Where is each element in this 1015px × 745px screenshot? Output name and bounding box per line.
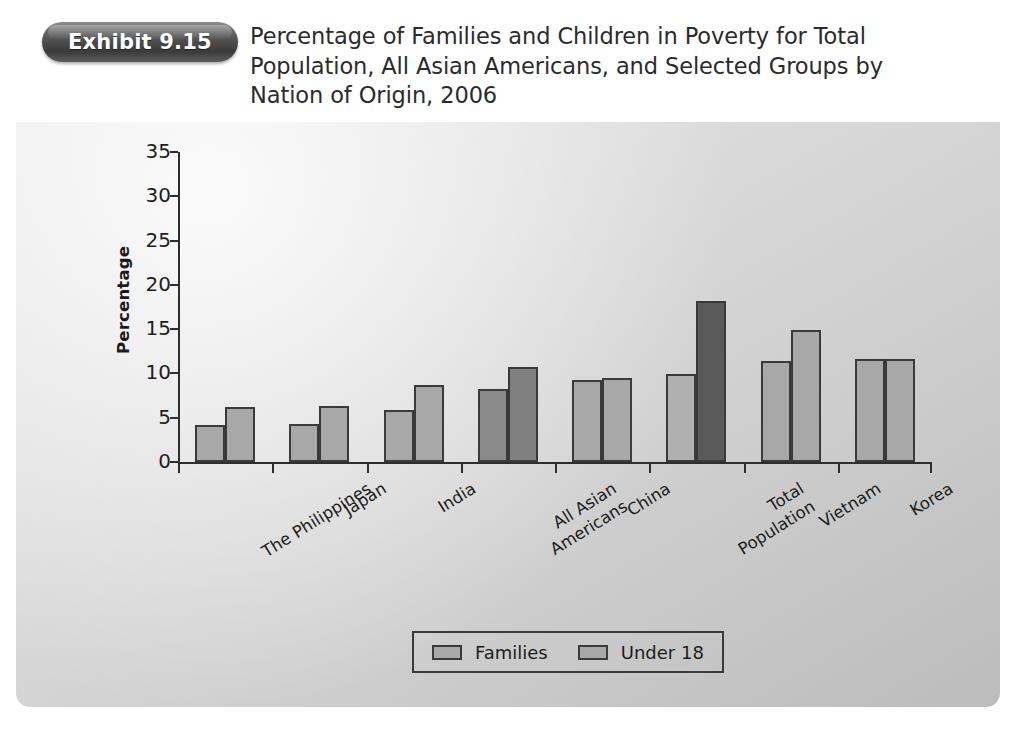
- y-axis-tick-label: 10: [146, 360, 171, 384]
- bar: [478, 389, 508, 463]
- x-axis-tick-mark: [272, 464, 274, 473]
- x-axis-tick-mark: [367, 464, 369, 473]
- x-axis-label: India: [434, 478, 479, 517]
- bar: [572, 380, 602, 462]
- legend-label: Families: [475, 642, 548, 663]
- y-axis-tick-mark: [170, 461, 178, 463]
- bar: [791, 330, 821, 462]
- chart-title: Percentage of Families and Children in P…: [250, 22, 950, 111]
- y-axis-tick-mark: [170, 284, 178, 286]
- x-axis-tick-mark: [838, 464, 840, 473]
- bar: [319, 406, 349, 462]
- exhibit-badge-label: Exhibit 9.15: [42, 22, 238, 62]
- x-axis-label: Vietnam: [815, 478, 884, 532]
- chart-legend: FamiliesUnder 18: [412, 631, 724, 673]
- y-axis-tick-label: 15: [146, 316, 171, 340]
- bar: [508, 367, 538, 462]
- y-axis-tick-mark: [170, 328, 178, 330]
- y-axis-tick-mark: [170, 195, 178, 197]
- y-axis-tick-mark: [170, 417, 178, 419]
- y-axis-title: Percentage: [114, 246, 133, 354]
- legend-label: Under 18: [621, 642, 704, 663]
- y-axis-tick-label: 5: [158, 405, 171, 429]
- x-axis-tick-mark: [744, 464, 746, 473]
- x-axis-label: TotalPopulation: [724, 478, 820, 560]
- bar: [855, 359, 885, 462]
- bar: [761, 361, 791, 462]
- x-axis-tick-mark: [649, 464, 651, 473]
- chart-panel: Percentage 05101520253035 The Philippine…: [16, 122, 1000, 707]
- y-axis-tick-mark: [170, 240, 178, 242]
- exhibit-badge: Exhibit 9.15: [42, 22, 238, 62]
- legend-swatch: [578, 645, 608, 660]
- x-axis-label: Korea: [906, 478, 957, 521]
- y-axis-tick-mark: [170, 372, 178, 374]
- x-axis-tick-mark: [461, 464, 463, 473]
- x-axis-tick-mark: [555, 464, 557, 473]
- bar: [414, 385, 444, 462]
- y-axis-tick-label: 20: [146, 272, 171, 296]
- y-axis-tick-mark: [170, 151, 178, 153]
- legend-item: Under 18: [578, 642, 704, 663]
- y-axis-tick-label: 0: [158, 449, 171, 473]
- y-axis-tick-label: 25: [146, 228, 171, 252]
- bar: [602, 378, 632, 462]
- x-axis-label: All AsianAmericans: [535, 478, 631, 560]
- x-axis-tick-mark: [930, 464, 932, 473]
- y-axis-tick-label: 30: [146, 183, 171, 207]
- bar: [384, 410, 414, 462]
- bar: [225, 407, 255, 462]
- plot-area: 05101520253035 The PhilippinesJapanIndia…: [178, 152, 932, 462]
- y-axis-line: [178, 152, 180, 464]
- y-axis-tick-label: 35: [146, 139, 171, 163]
- bar: [885, 359, 915, 462]
- exhibit-header: Exhibit 9.15 Percentage of Families and …: [0, 0, 1015, 122]
- bar: [666, 374, 696, 462]
- x-axis-tick-mark: [178, 464, 180, 473]
- x-axis-label: China: [623, 478, 674, 521]
- bar: [195, 425, 225, 462]
- legend-swatch: [432, 645, 462, 660]
- bar: [696, 301, 726, 462]
- legend-item: Families: [432, 642, 548, 663]
- bar: [289, 424, 319, 462]
